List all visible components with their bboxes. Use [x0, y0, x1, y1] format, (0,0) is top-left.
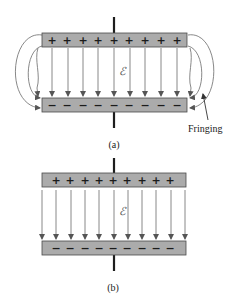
svg-text:+: + — [151, 174, 160, 187]
capacitor-fringing-diagram: + + + + + + + + + − − − − − − − − − ℰ Fr… — [0, 0, 236, 306]
svg-text:−: − — [109, 99, 118, 112]
svg-text:−: − — [93, 99, 102, 112]
panel-b: + + + + + + + + + − − − − − − − − − ℰ (b… — [42, 158, 186, 294]
field-lines-a — [52, 48, 177, 96]
field-lines-b — [42, 190, 185, 239]
svg-text:+: + — [122, 174, 131, 187]
svg-text:−: − — [165, 242, 174, 255]
svg-text:−: − — [156, 99, 165, 112]
svg-text:+: + — [47, 34, 56, 47]
negative-charges-a: − − − − − − − − − — [47, 99, 181, 112]
fringing-label: Fringing — [188, 123, 222, 134]
electric-field-symbol-a: ℰ — [119, 65, 127, 78]
svg-text:+: + — [94, 174, 103, 187]
svg-text:+: + — [165, 174, 174, 187]
svg-text:+: + — [156, 34, 165, 47]
panel-a: + + + + + + + + + − − − − − − − − − ℰ Fr… — [15, 17, 222, 151]
caption-b: (b) — [107, 282, 119, 294]
svg-text:+: + — [93, 34, 102, 47]
electric-field-symbol-b: ℰ — [119, 205, 127, 218]
svg-text:−: − — [172, 99, 181, 112]
positive-charges-b: + + + + + + + + + — [51, 174, 174, 187]
svg-text:+: + — [78, 34, 87, 47]
positive-charges-a: + + + + + + + + + — [47, 34, 181, 47]
svg-text:+: + — [172, 34, 181, 47]
svg-text:+: + — [65, 174, 74, 187]
caption-a: (a) — [108, 139, 119, 151]
svg-text:−: − — [47, 99, 56, 112]
svg-text:−: − — [137, 242, 146, 255]
svg-text:+: + — [124, 34, 133, 47]
svg-text:+: + — [109, 34, 118, 47]
svg-text:−: − — [62, 99, 71, 112]
svg-text:−: − — [108, 242, 117, 255]
svg-text:−: − — [51, 242, 60, 255]
svg-text:−: − — [124, 99, 133, 112]
fringe-lines-left-a — [15, 35, 42, 108]
svg-text:−: − — [94, 242, 103, 255]
svg-text:+: + — [108, 174, 117, 187]
fringing-pointer-arrow — [203, 94, 208, 120]
svg-text:−: − — [140, 99, 149, 112]
svg-text:+: + — [80, 174, 89, 187]
svg-text:+: + — [140, 34, 149, 47]
svg-text:+: + — [137, 174, 146, 187]
svg-text:+: + — [62, 34, 71, 47]
svg-text:−: − — [78, 99, 87, 112]
svg-text:−: − — [80, 242, 89, 255]
svg-text:−: − — [65, 242, 74, 255]
svg-text:+: + — [51, 174, 60, 187]
fringe-lines-right-a — [188, 35, 214, 108]
svg-text:−: − — [122, 242, 131, 255]
svg-text:−: − — [151, 242, 160, 255]
negative-charges-b: − − − − − − − − − — [51, 242, 174, 255]
